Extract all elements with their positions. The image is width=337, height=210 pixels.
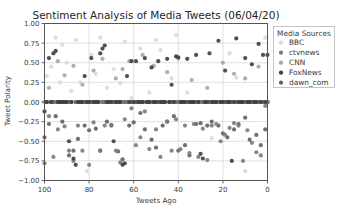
data-point [98, 36, 102, 40]
data-point [210, 136, 214, 140]
data-point [170, 76, 174, 80]
data-point [154, 100, 158, 104]
legend-label-cnn[interactable]: CNN [289, 58, 305, 67]
data-point [74, 163, 78, 167]
legend-label-dawn_com[interactable]: dawn_com [289, 78, 328, 87]
x-tick-label: 20 [218, 186, 227, 194]
legend-marker-foxnews [279, 71, 283, 75]
data-point [174, 117, 178, 121]
y-tick-label: −0.50 [18, 138, 39, 146]
data-point [192, 122, 196, 126]
data-point [254, 133, 258, 137]
data-point [62, 124, 66, 128]
data-point [96, 100, 100, 104]
x-tick-label: 100 [38, 186, 51, 194]
x-tick-label: 0 [265, 186, 269, 194]
data-point [187, 151, 191, 155]
data-point [183, 143, 187, 147]
data-point [156, 59, 160, 63]
y-tick-label: 1.00 [24, 20, 40, 28]
data-point [134, 143, 138, 147]
data-point [227, 51, 231, 55]
data-point [123, 161, 127, 165]
data-point [232, 100, 236, 104]
data-point [243, 76, 247, 80]
data-point [176, 55, 180, 59]
data-point [263, 104, 267, 108]
data-point [165, 120, 169, 124]
data-point [263, 127, 267, 131]
data-point [232, 121, 236, 125]
data-point [243, 56, 247, 60]
data-point [243, 116, 247, 120]
data-point [163, 100, 167, 104]
data-point [98, 51, 102, 55]
data-point [80, 100, 84, 104]
data-point [71, 156, 75, 160]
legend-label-foxnews[interactable]: FoxNews [289, 68, 322, 77]
data-point [245, 128, 249, 132]
data-point [185, 90, 189, 94]
data-point [138, 47, 142, 51]
data-point [210, 120, 214, 124]
data-point [161, 123, 165, 127]
data-point [254, 150, 258, 154]
data-point [47, 122, 51, 126]
data-point [74, 38, 78, 42]
data-point [123, 117, 127, 121]
data-point [134, 59, 138, 63]
data-point [65, 100, 69, 104]
data-point [54, 36, 58, 40]
data-point [241, 159, 245, 163]
data-point [83, 74, 87, 78]
data-point [67, 139, 71, 143]
data-point [129, 106, 133, 110]
data-point [69, 89, 73, 93]
legend-label-bbc[interactable]: BBC [289, 38, 304, 47]
data-point [54, 114, 58, 118]
data-point [103, 123, 107, 127]
chart-title: Sentiment Analysis of Media Tweets (06/0… [32, 9, 279, 21]
data-point [127, 123, 131, 127]
legend-marker-cnn [279, 61, 283, 65]
data-point [109, 123, 113, 127]
data-point [80, 149, 84, 153]
data-point [141, 100, 145, 104]
data-point [256, 42, 260, 46]
y-tick-label: 0.00 [24, 99, 40, 107]
data-point [49, 100, 53, 104]
data-point [132, 100, 136, 104]
legend-label-ctvnews[interactable]: ctvnews [289, 48, 320, 57]
data-point [219, 139, 223, 143]
x-axis-label: Tweets Ago [135, 196, 177, 205]
data-point [149, 65, 153, 69]
data-point [143, 56, 147, 60]
data-point [109, 100, 113, 104]
data-point [248, 100, 252, 104]
data-point [125, 74, 129, 78]
data-point [234, 76, 238, 80]
data-point [205, 158, 209, 162]
data-point [120, 67, 124, 71]
data-point [256, 65, 260, 69]
data-point [91, 69, 95, 73]
data-point [94, 127, 98, 131]
data-point [154, 127, 158, 131]
data-point [190, 78, 194, 82]
data-point [165, 70, 169, 74]
data-point [149, 138, 153, 142]
data-point [259, 100, 263, 104]
data-point [199, 121, 203, 125]
data-point [201, 127, 205, 131]
data-point [185, 57, 189, 61]
data-point [87, 100, 91, 104]
data-point [172, 100, 176, 104]
data-point [223, 69, 227, 73]
y-tick-label: −0.25 [18, 118, 39, 126]
data-point [129, 96, 133, 100]
data-point [183, 123, 187, 127]
data-point [138, 135, 142, 139]
data-point [199, 152, 203, 156]
data-point [143, 127, 147, 131]
legend-title: Media Sources [277, 29, 331, 38]
